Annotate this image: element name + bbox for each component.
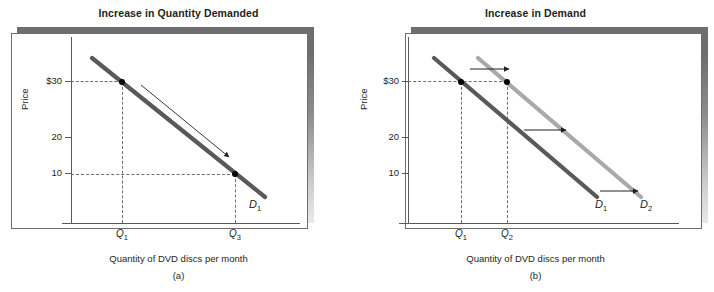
panel-a-x-axis bbox=[62, 223, 300, 224]
panel-b-ylabel-20: 20 bbox=[388, 131, 399, 142]
panel-a-curve-label-d1-base: D bbox=[249, 198, 257, 210]
panel-a-title: Increase in Quantity Demanded bbox=[0, 7, 357, 19]
panel-b-plot-frame bbox=[405, 33, 702, 229]
panel-a-y-axis-title: Price bbox=[19, 88, 30, 110]
panel-b-y-axis bbox=[408, 37, 409, 223]
panel-b-ylabel-30: $30 bbox=[383, 75, 399, 86]
panel-b-curve-label-d1-sub: 1 bbox=[603, 204, 607, 213]
panel-b-xlabel-q2: Q2 bbox=[501, 228, 513, 242]
panel-a-ytick-20 bbox=[65, 137, 72, 138]
panel-b-caption: (b) bbox=[357, 270, 714, 281]
panel-b-ytick-20 bbox=[402, 137, 409, 138]
panel-b: Increase in Demand $30 20 10 Price bbox=[357, 0, 714, 292]
demand-curve-figure: Increase in Quantity Demanded $30 20 10 … bbox=[0, 0, 714, 292]
panel-b-dash-q1 bbox=[461, 82, 462, 223]
panel-a-xlabel-q3: Q3 bbox=[229, 228, 241, 242]
panel-a-xlabel-q1-sub: 1 bbox=[124, 233, 128, 242]
panel-b-xlabel-q2-base: Q bbox=[501, 228, 509, 239]
panel-b-ylabel-10: 10 bbox=[388, 167, 399, 178]
panel-a-ylabel-20: 20 bbox=[51, 131, 62, 142]
panel-b-xlabel-q1-base: Q bbox=[455, 228, 463, 239]
panel-a-dash-price-30 bbox=[71, 81, 122, 82]
panel-b-point-q1-30 bbox=[458, 79, 464, 85]
panel-b-curve-label-d1: D1 bbox=[595, 198, 607, 213]
panel-a: Increase in Quantity Demanded $30 20 10 … bbox=[0, 0, 357, 292]
panel-b-curve-label-d2-sub: 2 bbox=[648, 204, 652, 213]
panel-b-point-q2-30 bbox=[504, 79, 510, 85]
panel-a-xlabel-q1-base: Q bbox=[116, 228, 124, 239]
panel-b-xlabel-q1-sub: 1 bbox=[463, 233, 467, 242]
panel-a-ylabel-30: $30 bbox=[46, 75, 62, 86]
panel-b-curve-label-d2: D2 bbox=[640, 198, 652, 213]
panel-a-dash-q3 bbox=[235, 174, 236, 223]
panel-a-dash-q1 bbox=[122, 82, 123, 223]
panel-b-x-axis-title: Quantity of DVD discs per month bbox=[357, 253, 714, 264]
panel-b-title: Increase in Demand bbox=[357, 7, 714, 19]
panel-a-curve-label-d1-sub: 1 bbox=[257, 204, 261, 213]
panel-a-point-q1-30 bbox=[119, 79, 125, 85]
panel-b-curve-label-d2-base: D bbox=[640, 198, 648, 210]
panel-a-caption: (a) bbox=[0, 270, 357, 281]
panel-a-xlabel-q3-sub: 3 bbox=[237, 233, 241, 242]
panel-a-xlabel-q3-base: Q bbox=[229, 228, 237, 239]
panel-a-curve-label-d1: D1 bbox=[249, 198, 261, 213]
panel-a-x-axis-title: Quantity of DVD discs per month bbox=[0, 253, 357, 264]
panel-b-y-axis-title: Price bbox=[358, 88, 369, 110]
panel-b-dash-q2 bbox=[507, 82, 508, 223]
panel-b-ytick-10 bbox=[402, 173, 409, 174]
panel-a-dash-price-10 bbox=[71, 174, 235, 175]
panel-b-x-axis bbox=[399, 223, 679, 224]
panel-a-y-axis bbox=[71, 37, 72, 223]
panel-a-ylabel-10: 10 bbox=[51, 167, 62, 178]
panel-b-xlabel-q1: Q1 bbox=[455, 228, 467, 242]
panel-b-xlabel-q2-sub: 2 bbox=[509, 233, 513, 242]
panel-b-curve-label-d1-base: D bbox=[595, 198, 603, 210]
panel-a-point-q3-10 bbox=[232, 171, 238, 177]
panel-a-xlabel-q1: Q1 bbox=[116, 228, 128, 242]
